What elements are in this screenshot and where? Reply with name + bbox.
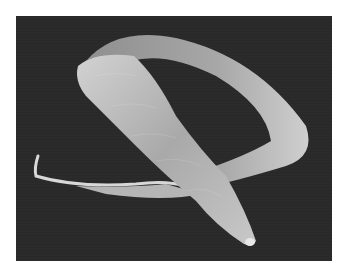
micrograph-frame	[16, 16, 332, 261]
head-tip	[245, 238, 255, 246]
nematode-illustration	[16, 16, 332, 261]
